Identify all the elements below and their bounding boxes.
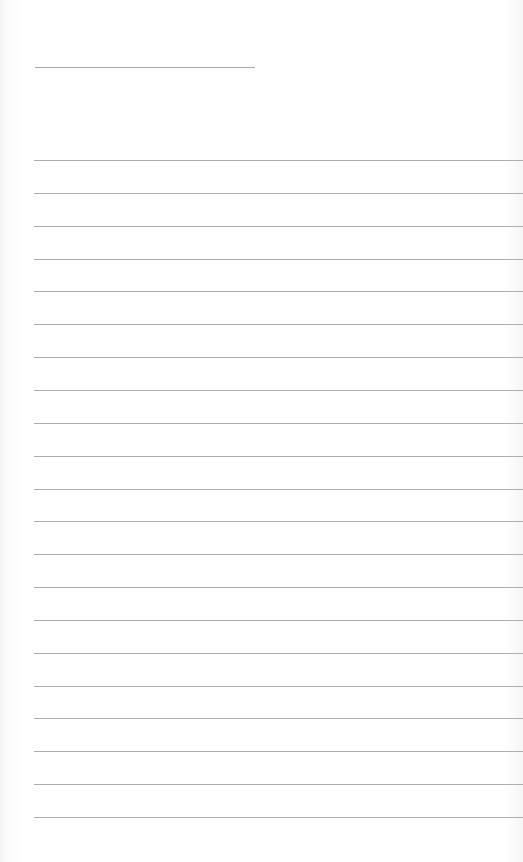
ruled-line [34, 291, 523, 292]
ruled-line [34, 489, 523, 490]
ruled-line [34, 751, 523, 752]
ruled-line [34, 259, 523, 260]
ruled-line [34, 620, 523, 621]
ruled-line [34, 324, 523, 325]
ruled-line [34, 193, 523, 194]
ruled-line [34, 554, 523, 555]
ruled-line [34, 653, 523, 654]
lined-paper-page [0, 0, 523, 862]
ruled-line [34, 817, 523, 818]
header-name-line [35, 67, 255, 68]
ruled-line [34, 456, 523, 457]
ruled-line [34, 784, 523, 785]
ruled-line [34, 718, 523, 719]
ruled-line [34, 160, 523, 161]
ruled-line [34, 357, 523, 358]
ruled-line [34, 423, 523, 424]
ruled-line [34, 226, 523, 227]
ruled-line [34, 521, 523, 522]
ruled-line [34, 686, 523, 687]
ruled-line [34, 587, 523, 588]
ruled-line [34, 390, 523, 391]
